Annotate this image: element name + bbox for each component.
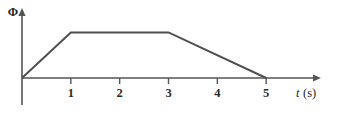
x-tick-label-4: 4 (214, 86, 221, 100)
x-tick-label-3: 3 (165, 86, 171, 100)
x-tick-label-5: 5 (263, 86, 269, 100)
x-axis-label-unit: (s) (303, 86, 316, 100)
y-axis-label: Φ (8, 5, 18, 19)
x-tick-label-2: 2 (117, 86, 123, 100)
x-axis-label-variable: t (296, 86, 300, 100)
x-tick-label-1: 1 (68, 86, 74, 100)
flux-time-chart: 1 2 3 4 5 Φ t (s) (0, 0, 337, 116)
chart-canvas: 1 2 3 4 5 Φ t (s) (0, 0, 337, 116)
